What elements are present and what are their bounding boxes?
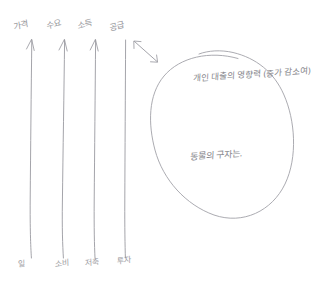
arrow-2-bottom-label: 소비 xyxy=(55,256,69,269)
arrow-3-bottom-label: 저축 xyxy=(85,255,99,268)
vertical-arrow-2 xyxy=(59,39,67,258)
arrow-4-bottom-label: 투자 xyxy=(117,253,131,266)
arrow-1-bottom-label: 일 xyxy=(18,257,25,269)
vertical-arrow-4 xyxy=(125,40,126,258)
vertical-arrow-1 xyxy=(27,39,35,258)
vertical-arrow-3 xyxy=(90,39,98,258)
sketch-drawing-layer xyxy=(0,0,320,296)
double-headed-arrow xyxy=(134,41,158,62)
sketch-canvas: 가격 수요 소득 공급 일 소비 저축 투자 개인 대출의 영향력 (증가 감소… xyxy=(0,0,320,296)
